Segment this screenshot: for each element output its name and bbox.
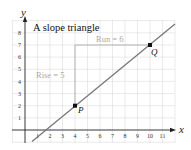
svg-text:3: 3 <box>61 133 64 139</box>
x-axis <box>12 128 176 132</box>
svg-text:6: 6 <box>18 54 21 60</box>
y-axis <box>23 16 27 143</box>
point-p-label: P <box>77 105 84 115</box>
run-label: Run = 6 <box>96 34 123 44</box>
slope-triangle-diagram: x y 1 2 3 4 5 6 7 8 9 10 11 1 2 3 4 5 6 … <box>0 0 191 150</box>
svg-text:4: 4 <box>74 133 77 139</box>
svg-text:10: 10 <box>147 133 153 139</box>
y-tick-labels: 1 2 3 4 5 6 7 8 <box>18 30 21 121</box>
svg-text:5: 5 <box>18 66 21 72</box>
svg-text:8: 8 <box>18 30 21 36</box>
svg-text:6: 6 <box>99 133 102 139</box>
svg-text:11: 11 <box>160 133 166 139</box>
svg-text:2: 2 <box>18 103 21 109</box>
point-q-label: Q <box>151 47 158 57</box>
point-p-marker <box>73 104 77 108</box>
svg-text:5: 5 <box>86 133 89 139</box>
svg-text:4: 4 <box>18 79 21 85</box>
rise-label: Rise = 5 <box>36 70 64 80</box>
x-axis-label: x <box>178 123 184 135</box>
diagram-title: A slope triangle <box>33 22 100 33</box>
x-tick-labels: 1 2 3 4 5 6 7 8 9 10 11 <box>36 133 165 139</box>
svg-text:8: 8 <box>124 133 127 139</box>
svg-text:1: 1 <box>18 115 21 121</box>
grid <box>13 20 176 143</box>
y-axis-label: y <box>20 6 26 18</box>
svg-text:2: 2 <box>49 133 52 139</box>
svg-text:7: 7 <box>18 42 21 48</box>
svg-text:7: 7 <box>111 133 114 139</box>
svg-text:3: 3 <box>18 91 21 97</box>
svg-text:9: 9 <box>136 133 139 139</box>
